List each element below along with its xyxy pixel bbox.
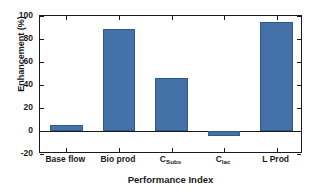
- y-axis-title: Enhancement (%): [16, 0, 26, 119]
- x-tick-label: CSubs: [160, 155, 181, 164]
- bar: [103, 29, 136, 131]
- y-tick-mark: [297, 131, 301, 132]
- x-tick-mark: [224, 16, 225, 20]
- y-tick-mark: [40, 131, 44, 132]
- x-tick-mark: [277, 148, 278, 152]
- x-tick-mark: [119, 148, 120, 152]
- bar: [260, 22, 293, 131]
- y-tick-mark: [40, 85, 44, 86]
- x-tick-label: L Prod: [262, 155, 289, 164]
- x-tick-mark: [66, 148, 67, 152]
- x-tick-label: Clac: [216, 155, 231, 164]
- y-tick-mark: [40, 16, 44, 17]
- x-tick-mark: [277, 16, 278, 20]
- x-tick-label: Base flow: [45, 155, 85, 164]
- x-tick-mark: [224, 148, 225, 152]
- y-tick-mark: [297, 85, 301, 86]
- x-tick-mark: [172, 148, 173, 152]
- bar: [50, 125, 83, 131]
- y-tick-mark: [297, 108, 301, 109]
- y-tick-label: 0: [28, 126, 33, 135]
- y-tick-mark: [297, 62, 301, 63]
- x-axis-tick-labels: Base flowBio prodCSubsClacL Prod: [39, 155, 302, 173]
- x-tick-label: Bio prod: [100, 155, 135, 164]
- x-tick-mark: [119, 16, 120, 20]
- zero-baseline: [40, 131, 301, 132]
- figure-bar-chart: 100 80 60 40 20 0 -20 Enhancement (%) Ba…: [0, 0, 317, 196]
- bar: [155, 78, 188, 131]
- x-tick-mark: [172, 16, 173, 20]
- y-tick-mark: [297, 16, 301, 17]
- y-tick-mark: [40, 39, 44, 40]
- x-axis-title: Performance Index: [39, 174, 302, 185]
- y-tick-mark: [40, 62, 44, 63]
- x-tick-mark: [66, 16, 67, 20]
- y-tick-mark: [297, 39, 301, 40]
- bar: [208, 131, 241, 136]
- y-tick-mark: [40, 108, 44, 109]
- plot-area: [39, 15, 302, 153]
- y-tick-label: -20: [21, 149, 33, 158]
